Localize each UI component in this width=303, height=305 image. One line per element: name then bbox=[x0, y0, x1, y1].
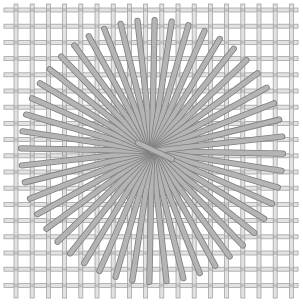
wire-crossing bbox=[144, 283, 148, 287]
wire-crossing bbox=[225, 24, 229, 28]
wire-crossing bbox=[14, 73, 18, 77]
wire-crossing bbox=[30, 121, 34, 125]
wire-crossing bbox=[192, 283, 196, 287]
wire-crossing bbox=[289, 154, 293, 158]
wire-crossing bbox=[257, 202, 261, 206]
wire-crossing bbox=[63, 154, 67, 158]
wire-crossing bbox=[208, 202, 212, 206]
wire-crossing bbox=[241, 40, 245, 44]
wire-crossing bbox=[30, 251, 34, 255]
wire-crossing bbox=[14, 235, 18, 239]
wire-crossing bbox=[95, 283, 99, 287]
wire-crossing bbox=[127, 251, 131, 255]
wire-crossing bbox=[257, 235, 261, 239]
wire-crossing bbox=[289, 73, 293, 77]
wire-crossing bbox=[241, 251, 245, 255]
wire-crossing bbox=[14, 105, 18, 109]
wire-crossing bbox=[14, 186, 18, 190]
wire-crossing bbox=[95, 8, 99, 12]
wire-crossing bbox=[257, 8, 261, 12]
wire-crossing bbox=[63, 24, 67, 28]
wire-crossing bbox=[241, 283, 245, 287]
wire-crossing bbox=[30, 202, 34, 206]
wire-crossing bbox=[46, 154, 50, 158]
wire-crossing bbox=[14, 283, 18, 287]
wire-crossing bbox=[257, 283, 261, 287]
wire-crossing bbox=[63, 40, 67, 44]
wire-crossing bbox=[46, 24, 50, 28]
wire-crossing bbox=[225, 283, 229, 287]
wire-crossing bbox=[192, 24, 196, 28]
wire-crossing bbox=[289, 8, 293, 12]
wire-crossing bbox=[225, 219, 229, 223]
wire-crossing bbox=[95, 24, 99, 28]
wire-crossing bbox=[30, 219, 34, 223]
wire-crossing bbox=[241, 8, 245, 12]
wire-crossing bbox=[289, 24, 293, 28]
wire-crossing bbox=[289, 121, 293, 125]
wire-crossing bbox=[241, 267, 245, 271]
wire-crossing bbox=[241, 89, 245, 93]
wire-crossing bbox=[14, 57, 18, 61]
wire-crossing bbox=[176, 8, 180, 12]
wire-crossing bbox=[208, 40, 212, 44]
wire-crossing bbox=[30, 24, 34, 28]
wire-crossing bbox=[46, 73, 50, 77]
wire-crossing bbox=[30, 267, 34, 271]
wire-crossing bbox=[127, 283, 131, 287]
wire-crossing bbox=[144, 8, 148, 12]
wire-crossing bbox=[192, 8, 196, 12]
wire-crossing bbox=[241, 105, 245, 109]
wire-crossing bbox=[289, 40, 293, 44]
wire-crossing bbox=[208, 8, 212, 12]
wire-crossing bbox=[289, 89, 293, 93]
wire-crossing bbox=[79, 251, 83, 255]
wire-crossing bbox=[289, 202, 293, 206]
wire-crossing bbox=[46, 57, 50, 61]
wire-crossing bbox=[289, 251, 293, 255]
wire-crossing bbox=[257, 57, 261, 61]
wire-crossing bbox=[30, 170, 34, 174]
wire-crossing bbox=[160, 24, 164, 28]
wire-crossing bbox=[273, 24, 277, 28]
wire-crossing bbox=[289, 235, 293, 239]
wire-crossing bbox=[241, 24, 245, 28]
wire-crossing bbox=[144, 235, 148, 239]
wire-crossing bbox=[241, 170, 245, 174]
wire-crossing bbox=[289, 105, 293, 109]
wire-crossing bbox=[257, 40, 261, 44]
wire-crossing bbox=[79, 24, 83, 28]
wire-crossing bbox=[241, 235, 245, 239]
wire-crossing bbox=[160, 8, 164, 12]
wire-crossing bbox=[225, 267, 229, 271]
wire-crossing bbox=[63, 283, 67, 287]
wire-crossing bbox=[46, 8, 50, 12]
wire-crossing bbox=[46, 235, 50, 239]
wire-crossing bbox=[273, 89, 277, 93]
wire-crossing bbox=[30, 235, 34, 239]
wire-crossing bbox=[111, 283, 115, 287]
wire-crossing bbox=[144, 24, 148, 28]
wire-crossing bbox=[14, 138, 18, 142]
wire-crossing bbox=[273, 235, 277, 239]
wire-crossing bbox=[273, 219, 277, 223]
wire-crossing bbox=[30, 8, 34, 12]
wire-crossing bbox=[30, 138, 34, 142]
wire-crossing bbox=[241, 121, 245, 125]
wire-crossing bbox=[127, 24, 131, 28]
wire-crossing bbox=[160, 283, 164, 287]
wire-crossing bbox=[30, 154, 34, 158]
wire-crossing bbox=[30, 40, 34, 44]
wire-crossing bbox=[225, 40, 229, 44]
wire-crossing bbox=[176, 40, 180, 44]
wire-crossing bbox=[30, 89, 34, 93]
wire-crossing bbox=[111, 24, 115, 28]
wire-crossing bbox=[63, 267, 67, 271]
wire-crossing bbox=[14, 219, 18, 223]
wire-crossing bbox=[79, 267, 83, 271]
wire-crossing bbox=[257, 186, 261, 190]
wire-crossing bbox=[46, 251, 50, 255]
wire-crossing bbox=[273, 57, 277, 61]
wire-crossing bbox=[14, 8, 18, 12]
wire-crossing bbox=[14, 251, 18, 255]
